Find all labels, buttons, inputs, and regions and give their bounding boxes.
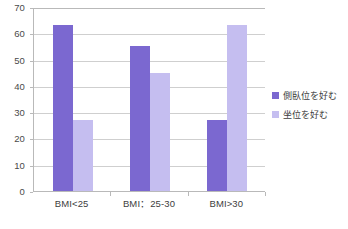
y-axis-tick-label: 70 — [0, 3, 25, 13]
legend-swatch-icon — [272, 92, 279, 99]
legend-item[interactable]: 坐位を好む — [272, 107, 337, 122]
chart-legend: 側臥位を好む坐位を好む — [272, 88, 337, 126]
bar[interactable] — [150, 73, 170, 191]
y-axis-tick-label: 50 — [0, 56, 25, 66]
y-axis-tick-label: 20 — [0, 134, 25, 144]
x-axis-tick-label: BMI>30 — [188, 198, 265, 209]
y-axis-tick-label: 40 — [0, 82, 25, 92]
bar-group — [130, 8, 170, 191]
bar[interactable] — [207, 120, 227, 191]
legend-swatch-icon — [272, 111, 279, 118]
bar-group — [207, 8, 247, 191]
bar-group — [53, 8, 93, 191]
x-axis-tick-mark — [110, 192, 111, 196]
bar[interactable] — [130, 46, 150, 191]
y-axis-tick-label: 0 — [0, 187, 25, 197]
bars-layer — [34, 8, 265, 191]
legend-item[interactable]: 側臥位を好む — [272, 88, 337, 103]
y-axis-tick-label: 10 — [0, 161, 25, 171]
x-axis-tick-mark — [188, 192, 189, 196]
legend-label: 側臥位を好む — [283, 91, 337, 101]
bar[interactable] — [53, 25, 73, 191]
legend-label: 坐位を好む — [283, 110, 328, 120]
bar-chart: 010203040506070 BMI<25BMI：25-30BMI>30 側臥… — [0, 0, 348, 229]
bar[interactable] — [227, 25, 247, 191]
y-axis-tick-mark — [30, 192, 33, 193]
bar[interactable] — [73, 120, 93, 191]
x-axis-tick-mark — [265, 192, 266, 196]
x-axis-tick-label: BMI：25-30 — [110, 198, 187, 209]
y-axis-tick-label: 60 — [0, 29, 25, 39]
y-axis-tick-label: 30 — [0, 108, 25, 118]
x-axis-tick-label: BMI<25 — [33, 198, 110, 209]
plot-area — [33, 8, 265, 192]
